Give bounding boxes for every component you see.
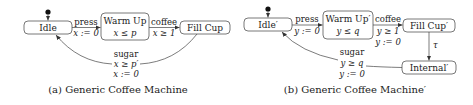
state-warm-up-label: Warm Up	[104, 16, 147, 26]
state-fill-cup: Fill Cup	[180, 21, 230, 34]
state-idle-prime: Idle′	[244, 18, 292, 31]
state-internal-prime-label: Internal′	[410, 63, 449, 73]
state-idle: Idle	[24, 21, 72, 34]
state-fill-cup-prime: Fill Cup′	[403, 19, 455, 32]
initial-state-dot	[45, 9, 50, 14]
transition-sugar-action: sugar	[340, 47, 365, 57]
caption-a: (a) Generic Coffee Machine	[48, 84, 188, 95]
transition-press-action: press	[295, 14, 318, 24]
state-idle-label: Idle	[39, 23, 57, 33]
transition-press-action: press	[74, 17, 97, 27]
state-warm-up-prime: Warm Up′ y ≤ q	[323, 11, 373, 39]
caption-b: (b) Generic Coffee Machine′	[284, 84, 427, 95]
transition-tau-action: τ	[433, 40, 438, 50]
diagram-canvas: Idle Warm Up x ≤ p Fill Cup press x := 0…	[0, 0, 473, 105]
state-idle-prime-label: Idle′	[258, 20, 278, 30]
state-internal-prime: Internal′	[402, 61, 456, 74]
transition-sugar-right	[366, 66, 402, 68]
transition-sugar-guard: x ≥ p′	[114, 59, 139, 69]
transition-coffee-update: y := 0	[374, 37, 401, 47]
state-warm-up-prime-invariant: y ≤ q	[336, 26, 360, 36]
transition-sugar-guard: y ≥ q	[340, 58, 364, 68]
diagram-a: Idle Warm Up x ≤ p Fill Cup press x := 0…	[24, 9, 230, 95]
transition-press-update: y := 0	[293, 26, 320, 36]
state-fill-cup-label: Fill Cup	[187, 23, 223, 33]
transition-sugar-update: x := 0	[113, 69, 139, 79]
diagram-b: Idle′ Warm Up′ y ≤ q Fill Cup′ Internal′…	[244, 6, 456, 95]
transition-coffee-action: coffee	[375, 14, 401, 24]
transition-sugar-action: sugar	[114, 49, 139, 59]
state-warm-up-prime-label: Warm Up′	[326, 14, 371, 24]
transition-coffee-guard: y ≥ 1	[376, 26, 400, 36]
state-warm-up-invariant: x ≤ p	[114, 28, 137, 38]
transition-press-update: x := 0	[73, 28, 99, 38]
state-warm-up: Warm Up x ≤ p	[101, 13, 149, 40]
state-fill-cup-prime-label: Fill Cup′	[410, 21, 448, 31]
initial-state-dot	[265, 6, 270, 11]
transition-coffee-guard: x ≥ 1	[153, 28, 176, 38]
transition-sugar-update: y := 0	[338, 69, 365, 79]
transition-coffee-action: coffee	[151, 17, 177, 27]
